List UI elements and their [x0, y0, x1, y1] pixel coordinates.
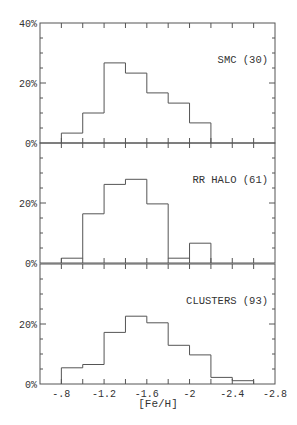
- x-axis-label: [Fe/H]: [138, 398, 178, 410]
- x-tick-label: -1.2: [92, 389, 116, 400]
- panel-label: CLUSTERS (93): [186, 295, 268, 307]
- y-tick-label: 20%: [19, 320, 37, 331]
- x-tick-label: -.8: [52, 389, 70, 400]
- x-tick-label: -2: [184, 389, 196, 400]
- panel-label: SMC (30): [218, 54, 268, 66]
- metallicity-histogram-chart: 0%20%40%SMC (30)0%20%RR HALO (61)0%20%CL…: [0, 0, 297, 425]
- panel-clusters: 0%20%CLUSTERS (93): [19, 264, 275, 391]
- panel-label: RR HALO (61): [192, 174, 268, 186]
- histogram-steps: [61, 63, 211, 143]
- histogram-steps: [61, 316, 253, 384]
- x-tick-label: -2.8: [263, 389, 287, 400]
- panel-frame: [40, 264, 275, 384]
- panel-frame: [40, 23, 275, 143]
- y-tick-label: 20%: [19, 199, 37, 210]
- y-tick-label: 40%: [19, 19, 37, 30]
- y-tick-label: 0%: [25, 380, 37, 391]
- histogram-steps: [61, 179, 211, 263]
- panel-smc: 0%20%40%SMC (30): [19, 19, 275, 150]
- panel-rr-halo: 0%20%RR HALO (61): [19, 143, 275, 270]
- y-tick-label: 0%: [25, 259, 37, 270]
- x-tick-label: -2.4: [220, 389, 244, 400]
- panel-frame: [40, 143, 275, 263]
- y-tick-label: 0%: [25, 139, 37, 150]
- y-tick-label: 20%: [19, 79, 37, 90]
